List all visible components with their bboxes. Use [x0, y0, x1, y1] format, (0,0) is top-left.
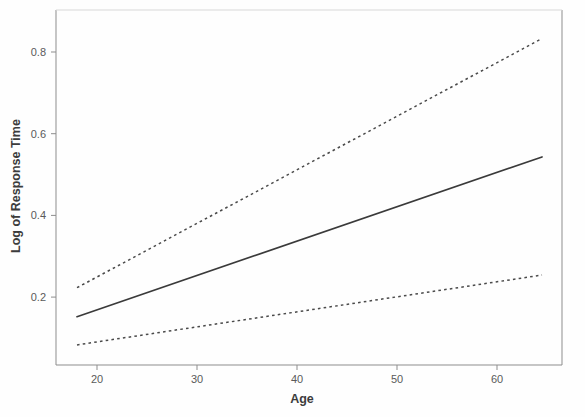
y-tick-label-3: 0.2 [31, 291, 46, 303]
x-tick-label-4: 60 [491, 373, 503, 385]
y-axis-title: Log of Response Time [9, 119, 23, 253]
x-tick-label-2: 40 [291, 373, 303, 385]
regression-plot: 0.8 0.6 0.4 0.2 20 30 40 50 60 Age Log o… [0, 0, 585, 417]
y-tick-label-2: 0.4 [31, 209, 46, 221]
x-tick-label-1: 30 [191, 373, 203, 385]
y-tick-label-1: 0.6 [31, 128, 46, 140]
x-axis-title: Age [290, 392, 314, 406]
x-tick-label-3: 50 [391, 373, 403, 385]
chart-figure: 0.8 0.6 0.4 0.2 20 30 40 50 60 Age Log o… [0, 0, 585, 417]
x-tick-label-0: 20 [91, 373, 103, 385]
y-tick-label-0: 0.8 [31, 46, 46, 58]
